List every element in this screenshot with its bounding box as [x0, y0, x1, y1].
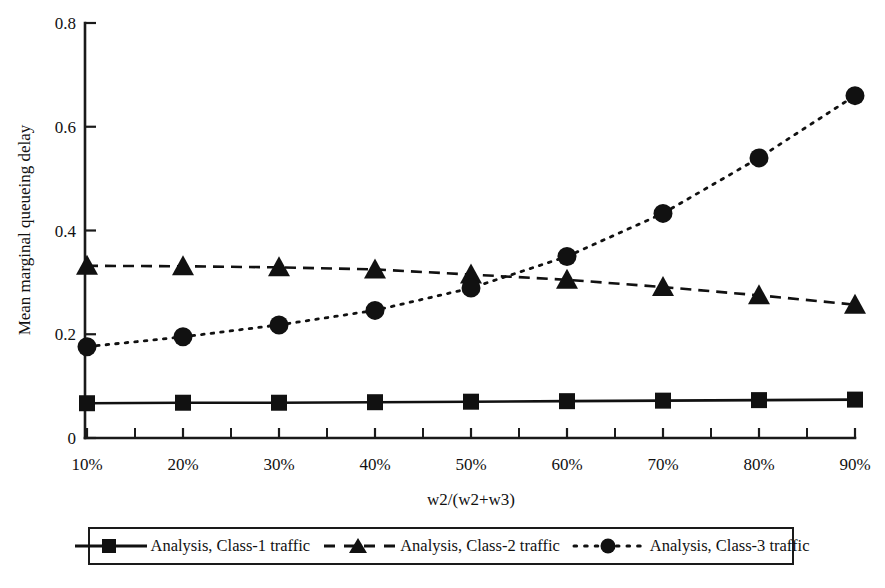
x-tick-label: 40% [359, 455, 390, 474]
square-marker-icon [73, 537, 149, 555]
chart-figure: 0.8 0.6 0.4 0.2 0 1 [0, 0, 885, 588]
data-point [462, 279, 481, 298]
x-axis-tick-labels: 10% 20% 30% 40% 50% 60% 70% 80% 90% [71, 455, 870, 474]
legend-item-class-2[interactable]: Analysis, Class-2 traffic [322, 536, 560, 556]
legend-label: Analysis, Class-2 traffic [400, 536, 560, 556]
data-point [367, 394, 383, 410]
y-tick-label: 0 [68, 429, 77, 448]
data-point [846, 86, 865, 105]
data-point [174, 327, 193, 346]
data-point [751, 392, 767, 408]
y-axis-title: Mean marginal queueing delay [15, 124, 34, 335]
data-point [79, 395, 95, 411]
legend-item-class-1[interactable]: Analysis, Class-1 traffic [73, 536, 311, 556]
x-tick-label: 60% [551, 455, 582, 474]
data-point [270, 315, 289, 334]
series-3 [78, 86, 865, 356]
data-point [654, 204, 673, 223]
data-point [748, 284, 770, 304]
legend-label: Analysis, Class-3 traffic [650, 536, 810, 556]
series-layer [76, 86, 866, 411]
x-tick-label: 70% [647, 455, 678, 474]
y-axis-tick-labels: 0.8 0.6 0.4 0.2 0 [55, 14, 77, 448]
x-tick-label: 50% [455, 455, 486, 474]
data-point [366, 301, 385, 320]
series-1 [79, 392, 863, 412]
y-tick-label: 0.8 [55, 14, 76, 33]
y-axis-ticks [85, 23, 96, 438]
triangle-marker-icon [322, 537, 398, 555]
line-chart-canvas: 0.8 0.6 0.4 0.2 0 1 [0, 0, 885, 588]
chart-legend: Analysis, Class-1 traffic Analysis, Clas… [88, 527, 794, 565]
data-point [559, 393, 575, 409]
circle-marker-icon [572, 537, 648, 555]
data-point [558, 247, 577, 266]
data-point [175, 395, 191, 411]
x-axis-title: w2/(w2+w3) [427, 490, 515, 509]
series-line [87, 96, 855, 347]
y-tick-label: 0.4 [55, 222, 77, 241]
x-tick-label: 20% [167, 455, 198, 474]
x-tick-label: 30% [263, 455, 294, 474]
y-tick-label: 0.6 [55, 118, 76, 137]
data-point [271, 395, 287, 411]
data-point [847, 392, 863, 408]
data-point [172, 255, 194, 275]
x-axis-ticks [87, 428, 855, 438]
data-point [750, 148, 769, 167]
data-point [78, 337, 97, 356]
x-tick-label: 80% [743, 455, 774, 474]
legend-item-class-3[interactable]: Analysis, Class-3 traffic [572, 536, 810, 556]
y-tick-label: 0.2 [55, 325, 76, 344]
data-point [463, 394, 479, 410]
legend-label: Analysis, Class-1 traffic [151, 536, 311, 556]
x-tick-label: 10% [71, 455, 102, 474]
data-point [655, 393, 671, 409]
x-tick-label: 90% [839, 455, 870, 474]
